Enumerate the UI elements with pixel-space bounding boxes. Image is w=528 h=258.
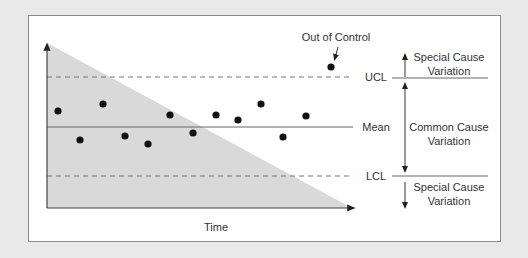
data-point xyxy=(212,111,219,118)
out-of-control-point xyxy=(327,63,334,70)
special-bottom-text-2: Variation xyxy=(428,195,471,207)
data-point xyxy=(144,140,151,147)
data-point xyxy=(257,100,264,107)
data-point xyxy=(54,107,61,114)
special-top-text-2: Variation xyxy=(428,65,471,77)
mean-label: Mean xyxy=(362,121,390,133)
data-point xyxy=(76,136,83,143)
data-point xyxy=(99,100,106,107)
x-axis-label: Time xyxy=(204,221,228,233)
data-point xyxy=(302,112,309,119)
data-point xyxy=(279,133,286,140)
data-point xyxy=(234,116,241,123)
shaded-triangle xyxy=(47,43,352,208)
data-point xyxy=(166,111,173,118)
data-point xyxy=(189,129,196,136)
out-of-control-label: Out of Control xyxy=(302,31,370,43)
common-text-1: Common Cause xyxy=(409,121,488,133)
lcl-label: LCL xyxy=(366,170,386,182)
control-chart: Out of Control UCL Mean LCL Special Caus… xyxy=(0,0,528,258)
ucl-label: UCL xyxy=(365,71,387,83)
special-top-text-1: Special Cause xyxy=(414,51,485,63)
data-point xyxy=(121,132,128,139)
special-bottom-text-1: Special Cause xyxy=(414,181,485,193)
common-text-2: Variation xyxy=(428,135,471,147)
out-of-control-pointer xyxy=(335,47,338,58)
